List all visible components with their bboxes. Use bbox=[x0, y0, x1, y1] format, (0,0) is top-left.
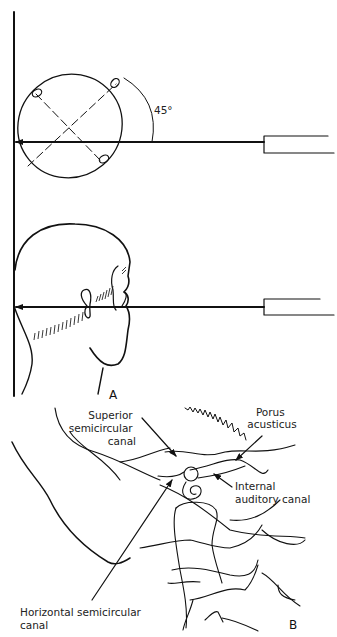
diagram-canvas: 45° bbox=[0, 0, 337, 637]
panel-a: 45° bbox=[0, 12, 334, 402]
label-horizontal-semicircular-canal: Horizontal semicircular canal bbox=[20, 606, 144, 631]
angle-label: 45° bbox=[154, 104, 173, 116]
xray-tube-top bbox=[264, 136, 334, 153]
angle-arc bbox=[124, 78, 153, 142]
xray-tube-side bbox=[264, 299, 334, 315]
label-internal-auditory-canal: Internal auditory canal bbox=[235, 480, 310, 505]
panel-b-label: B bbox=[289, 618, 297, 632]
skull-top-view: 45° bbox=[0, 53, 334, 199]
label-porus-acusticus: Porus acusticus bbox=[247, 406, 296, 430]
head-side-view bbox=[14, 224, 334, 394]
panel-b: Superior semicircular canal Porus acusti… bbox=[12, 406, 310, 632]
temporal-bone-outline bbox=[12, 407, 305, 631]
panel-a-label: A bbox=[109, 388, 118, 402]
